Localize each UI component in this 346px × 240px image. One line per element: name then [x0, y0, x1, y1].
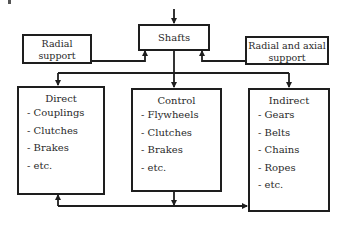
indirect-title: Indirect	[250, 95, 328, 106]
radial-axial-support-box: Radial and axial support	[245, 36, 329, 65]
control-list: - Flywheels - Clutches - Brakes - etc.	[133, 106, 220, 176]
indirect-box: Indirect - Gears - Belts - Chains - Rope…	[248, 88, 330, 212]
radial-support-line-1: Radial	[24, 38, 90, 50]
direct-title: Direct	[19, 93, 103, 104]
list-item: - Couplings	[27, 104, 103, 122]
list-item: - Ropes	[258, 159, 328, 177]
list-item: - etc.	[141, 159, 220, 177]
control-box: Control - Flywheels - Clutches - Brakes …	[131, 88, 222, 192]
list-item: - Clutches	[141, 124, 220, 142]
radial-axial-support-line-1: Radial and axial	[247, 40, 327, 52]
list-item: - Gears	[258, 106, 328, 124]
list-item: - Brakes	[141, 141, 220, 159]
list-item: - Clutches	[27, 122, 103, 140]
shafts-box: Shafts	[138, 24, 210, 51]
list-item: - etc.	[27, 157, 103, 175]
radial-support-line-2: support	[24, 50, 90, 62]
shafts-label: Shafts	[140, 32, 208, 44]
list-item: - Chains	[258, 141, 328, 159]
radial-axial-support-line-2: support	[247, 52, 327, 64]
list-item: - Flywheels	[141, 106, 220, 124]
list-item: - Brakes	[27, 139, 103, 157]
control-title: Control	[133, 95, 220, 106]
indirect-list: - Gears - Belts - Chains - Ropes - etc.	[250, 106, 328, 194]
list-item: - etc.	[258, 176, 328, 194]
direct-list: - Couplings - Clutches - Brakes - etc.	[19, 104, 103, 174]
list-item: - Belts	[258, 124, 328, 142]
direct-box: Direct - Couplings - Clutches - Brakes -…	[17, 86, 105, 195]
radial-support-box: Radial support	[22, 34, 92, 64]
